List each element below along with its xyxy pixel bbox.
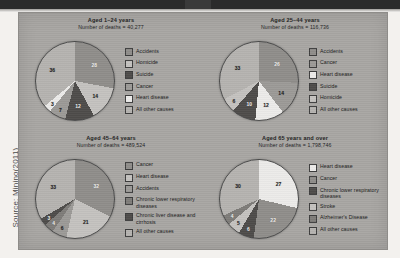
legend-item[interactable]: Cancer <box>125 161 203 170</box>
legend-swatch-icon <box>309 48 317 56</box>
legend-item[interactable]: Stroke <box>309 203 387 212</box>
legend-swatch-icon <box>309 187 317 195</box>
legend-item[interactable]: Cancer <box>309 59 387 68</box>
legend-item[interactable]: Homicide <box>309 94 387 103</box>
legend-item-label: All other causes <box>136 106 174 112</box>
panel-subtitle-0: Number of deaths = 40,277 <box>19 24 203 30</box>
pie-slice-value: 3 <box>51 101 54 107</box>
legend-swatch-icon <box>125 229 133 237</box>
legend-item-label: Cancer <box>320 175 337 181</box>
legend-3: Heart diseaseCancerChronic lower respira… <box>305 163 387 234</box>
legend-item[interactable]: All other causes <box>309 226 387 235</box>
legend-swatch-icon <box>125 162 133 170</box>
panel-title-2: Aged 45–64 years <box>19 135 203 142</box>
legend-item[interactable]: Suicide <box>125 71 203 80</box>
pie-wrap-2: 322164333 <box>29 159 121 239</box>
legend-item[interactable]: Cancer <box>125 83 203 92</box>
legend-swatch-icon <box>125 106 133 114</box>
legend-item-label: Homicide <box>320 94 342 100</box>
pie-slice-value: 6 <box>233 98 236 104</box>
panel-body-1: 26141210633 AccidentsCancerHeart disease… <box>203 33 387 129</box>
pie-wrap-3: 272265430 <box>213 159 305 239</box>
legend-item-label: Cancer <box>320 59 337 65</box>
legend-swatch-icon <box>309 71 317 79</box>
legend-item-label: Suicide <box>136 71 153 77</box>
panel-subtitle-2: Number of deaths = 489,524 <box>19 142 203 148</box>
legend-item[interactable]: Alzheimer's Disease <box>309 214 387 223</box>
legend-item[interactable]: Suicide <box>309 83 387 92</box>
legend-item-label: Alzheimer's Disease <box>320 214 368 220</box>
legend-item[interactable]: Cancer <box>309 175 387 184</box>
legend-item[interactable]: All other causes <box>125 228 203 237</box>
legend-item-label: Accidents <box>136 185 159 191</box>
pie-slice-value: 33 <box>51 184 57 190</box>
panel-heading-3: Aged 65 years and over Number of deaths … <box>203 135 387 148</box>
panel-title-0: Aged 1–24 years <box>19 17 203 24</box>
legend-item[interactable]: Accidents <box>125 48 203 57</box>
panel-subtitle-3: Number of deaths = 1,798,746 <box>203 142 387 148</box>
legend-item-label: Suicide <box>320 83 337 89</box>
legend-item-label: Heart disease <box>320 163 353 169</box>
panel-body-3: 272265430 Heart diseaseCancerChronic low… <box>203 151 387 247</box>
panel-title-3: Aged 65 years and over <box>203 135 387 142</box>
legend-swatch-icon <box>309 60 317 68</box>
legend-item[interactable]: Chronic lower respiratory diseases <box>309 187 387 200</box>
legend-item[interactable]: Heart disease <box>125 94 203 103</box>
pie-panel-1: Aged 25–44 years Number of deaths = 116,… <box>203 13 387 131</box>
legend-swatch-icon <box>125 71 133 79</box>
legend-item[interactable]: Accidents <box>309 48 387 57</box>
pie-slice-value: 3 <box>48 215 51 221</box>
legend-item[interactable]: Chronic liver disease and cirrhosis <box>125 212 203 225</box>
pie-slice-value: 4 <box>231 213 234 219</box>
legend-item[interactable]: Chronic lower respiratory diseases <box>125 196 203 209</box>
legend-swatch-icon <box>309 83 317 91</box>
legend-item[interactable]: Accidents <box>125 185 203 194</box>
panel-heading-2: Aged 45–64 years Number of deaths = 489,… <box>19 135 203 148</box>
legend-item[interactable]: Heart disease <box>309 71 387 80</box>
pie-slice-value: 14 <box>278 90 284 96</box>
header-bar-artifact <box>185 0 211 9</box>
legend-item-label: All other causes <box>320 106 358 112</box>
legend-item[interactable]: Heart disease <box>125 173 203 182</box>
pie-panel-3: Aged 65 years and over Number of deaths … <box>203 131 387 249</box>
pie-slice-value: 28 <box>91 62 97 68</box>
legend-1: AccidentsCancerHeart diseaseSuicideHomic… <box>305 48 387 115</box>
legend-swatch-icon <box>125 185 133 193</box>
legend-swatch-icon <box>125 213 133 221</box>
legend-swatch-icon <box>125 197 133 205</box>
legend-item-label: Cancer <box>136 83 153 89</box>
pie-slice-value: 32 <box>93 183 99 189</box>
pie-slice-value: 12 <box>75 103 81 109</box>
pie-slice-value: 30 <box>235 183 241 189</box>
pie-slice-value: 5 <box>237 220 240 226</box>
legend-item[interactable]: Homicide <box>125 59 203 68</box>
pie-slice-value: 10 <box>246 101 252 107</box>
legend-item[interactable]: Heart disease <box>309 163 387 172</box>
legend-swatch-icon <box>309 227 317 235</box>
legend-item[interactable]: All other causes <box>309 106 387 115</box>
pie-chart-2: 322164333 <box>35 159 115 239</box>
pie-chart-1: 26141210633 <box>219 41 299 121</box>
legend-item-label: Heart disease <box>136 173 169 179</box>
pie-slice-value: 6 <box>247 226 250 232</box>
legend-swatch-icon <box>309 164 317 172</box>
figure-plate: Aged 1–24 years Number of deaths = 40,27… <box>18 12 388 250</box>
legend-swatch-icon <box>125 95 133 103</box>
legend-swatch-icon <box>309 215 317 223</box>
pie-slice-value: 6 <box>61 225 64 231</box>
legend-item-label: Homicide <box>136 59 158 65</box>
legend-swatch-icon <box>125 60 133 68</box>
pie-slice-value: 36 <box>50 67 56 73</box>
legend-item[interactable]: All other causes <box>125 106 203 115</box>
panel-heading-1: Aged 25–44 years Number of deaths = 116,… <box>203 17 387 30</box>
legend-0: AccidentsHomicideSuicideCancerHeart dise… <box>121 48 203 115</box>
legend-item-label: Heart disease <box>320 71 353 77</box>
pie-slice-value: 4 <box>52 220 55 226</box>
legend-swatch-icon <box>309 176 317 184</box>
pie-wrap-1: 26141210633 <box>213 41 305 121</box>
legend-item-label: Chronic lower respiratory diseases <box>320 187 387 200</box>
legend-item-label: All other causes <box>136 228 174 234</box>
legend-item-label: Chronic lower respiratory diseases <box>136 196 203 209</box>
panel-body-2: 322164333 CancerHeart diseaseAccidentsCh… <box>19 151 203 247</box>
legend-item-label: Stroke <box>320 203 335 209</box>
